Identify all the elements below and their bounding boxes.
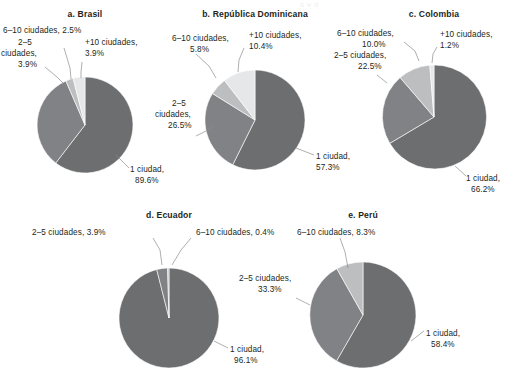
label-rd-1-ciudad-line2: 57.3% [316, 163, 340, 172]
chart-title-ecuador: d. Ecuador [146, 210, 192, 220]
pie-colombia [382, 65, 486, 169]
label-colombia-2-5-line2: 22.5% [358, 62, 382, 71]
label-rd-mas-10-line1: +10 ciudades, [249, 31, 302, 40]
pie-brasil [37, 77, 133, 173]
leader-brasil-mas-10 [81, 62, 82, 78]
label-colombia-mas-10-line1: +10 ciudades, [440, 30, 493, 39]
leader-peru-2-5 [296, 298, 310, 305]
label-ecuador-1-ciudad-line1: 1 ciudad, [230, 345, 264, 354]
leader-rd-mas-10 [238, 48, 244, 72]
label-brasil-2-5-line3: 3.9% [18, 60, 37, 69]
label-brasil-6-10: 6–10 ciudades, 2.5% [3, 26, 81, 35]
leader-colombia-6-10 [404, 42, 419, 61]
label-rd-1-ciudad-line1: 1 ciudad, [316, 152, 350, 161]
pie-peru [310, 262, 416, 368]
pie-republica-dominicana [205, 70, 305, 170]
label-colombia-1-ciudad-line2: 66.2% [471, 185, 495, 194]
label-brasil-2-5-line2: ciudades, [1, 49, 37, 58]
label-peru-6-10: 6–10 ciudades, 8.3% [297, 228, 375, 237]
label-brasil-1-ciudad-line1: 1 ciudad, [130, 165, 164, 174]
label-brasil-1-ciudad-line2: 89.6% [135, 176, 159, 185]
label-rd-6-10-line1: 6–10 ciudades, [172, 34, 229, 43]
chart-title-brasil: a. Brasil [68, 9, 103, 19]
chart-ecuador: d. Ecuador 1 ciudad, 96.1% 2–5 ciudades,… [32, 210, 274, 368]
chart-republica-dominicana: b. República Dominicana 1 ciudad, 57.3% … [155, 9, 350, 172]
leader-brasil-1-ciudad [116, 155, 129, 168]
leader-brasil-6-10 [64, 48, 71, 79]
label-peru-1-ciudad-line2: 58.4% [431, 340, 455, 349]
label-colombia-mas-10-line2: 1.2% [440, 41, 459, 50]
chart-title-colombia: c. Colombia [409, 9, 459, 19]
leader-colombia-2-5 [377, 75, 387, 83]
label-peru-2-5-line1: 2–5 ciudades, [239, 274, 291, 283]
chart-brasil: a. Brasil 1 ciudad, 89.6% 2–5 ciudade [1, 9, 164, 185]
label-colombia-6-10-line1: 6–10 ciudades, [337, 29, 394, 38]
label-peru-1-ciudad-line1: 1 ciudad, [426, 329, 460, 338]
leader-colombia-mas-10 [432, 47, 437, 63]
label-rd-2-5-line1: 2–5 [172, 99, 186, 108]
chart-colombia: c. Colombia 1 ciudad, 66.2% 2–5 ciudades… [334, 9, 500, 194]
label-rd-2-5-line3: 26.5% [168, 121, 192, 130]
leader-colombia-1-ciudad [455, 166, 466, 176]
label-peru-2-5-line2: 33.3% [258, 285, 282, 294]
leader-ecuador-2-5 [153, 238, 162, 265]
leader-ecuador-6-10 [172, 238, 191, 265]
label-ecuador-1-ciudad-line2: 96.1% [234, 356, 258, 365]
label-ecuador-2-5: 2–5 ciudades, 3.9% [32, 228, 106, 237]
leader-ecuador-1-ciudad [214, 341, 228, 348]
chart-title-peru: e. Perú [348, 210, 378, 220]
label-colombia-6-10-line2: 10.0% [362, 40, 386, 49]
pie-ecuador [119, 268, 219, 368]
label-colombia-1-ciudad-line1: 1 ciudad, [466, 174, 500, 183]
leader-brasil-2-5 [45, 67, 63, 83]
label-brasil-2-5-line1: 2–5 [18, 38, 32, 47]
pie-chart-figure: a. Brasil 1 ciudad, 89.6% 2–5 ciudade [0, 0, 518, 375]
label-rd-mas-10-line2: 10.4% [249, 42, 273, 51]
leader-rd-1-ciudad [296, 148, 314, 155]
figure-root: s y g a. Brasil 1 ciudad, 89. [0, 0, 518, 375]
label-rd-6-10-line2: 5.8% [190, 45, 209, 54]
leader-peru-6-10 [340, 238, 348, 268]
label-ecuador-6-10: 6–10 ciudades, 0.4% [196, 228, 274, 237]
label-brasil-mas-10-line2: 3.9% [85, 49, 104, 58]
label-brasil-mas-10-line1: +10 ciudades, [85, 38, 138, 47]
chart-title-republica-dominicana: b. República Dominicana [202, 9, 308, 19]
leader-rd-6-10 [196, 54, 216, 78]
label-colombia-2-5-line1: 2–5 ciudades, [334, 51, 386, 60]
label-rd-2-5-line2: ciudades, [155, 110, 191, 119]
